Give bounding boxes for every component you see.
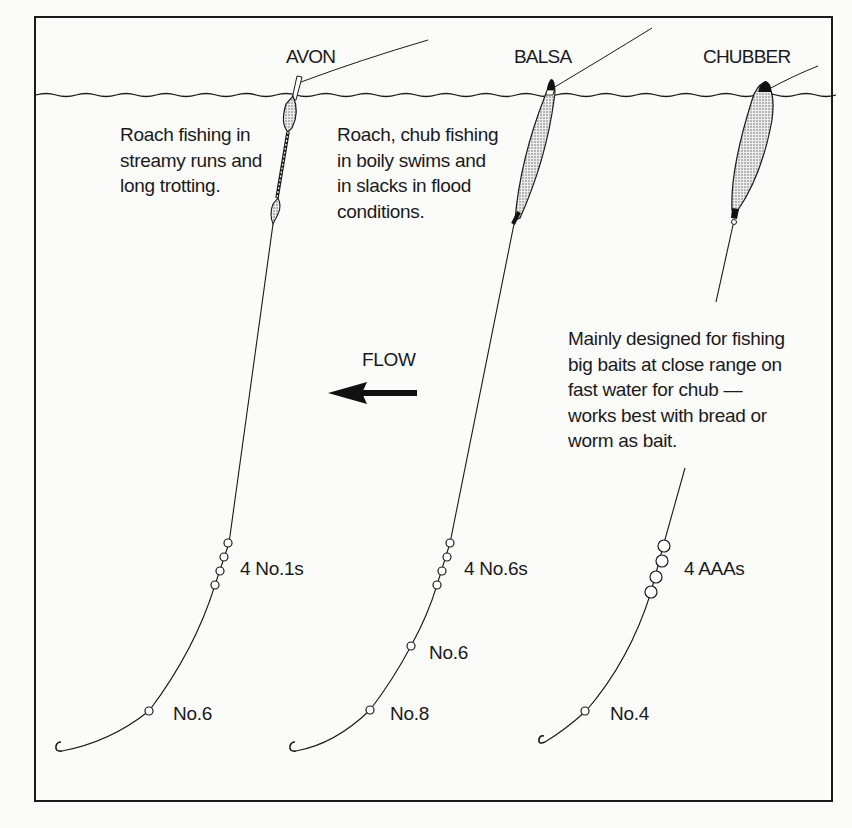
avon-description: Roach fishing in streamy runs and long t… <box>120 122 262 199</box>
balsa-dropper-label-lower: No.8 <box>390 701 429 726</box>
balsa-description-line: in slacks in flood <box>337 173 498 199</box>
chubber-description-line: Mainly designed for fishing <box>568 326 785 352</box>
water-surface-line <box>36 94 836 97</box>
avon-description-line: Roach fishing in <box>120 122 262 148</box>
balsa-description-line: in boily swims and <box>337 148 498 174</box>
balsa-shot-label: 4 No.6s <box>464 556 527 581</box>
balsa-float-title: BALSA <box>514 44 571 69</box>
chubber-description-line: works best with bread or <box>568 403 785 429</box>
chubber-description-line: worm as bait. <box>568 428 785 454</box>
avon-shot-label: 4 No.1s <box>240 556 303 581</box>
flow-label: FLOW <box>362 347 416 372</box>
avon-float-title: AVON <box>286 44 335 69</box>
avon-description-line: streamy runs and <box>120 148 262 174</box>
chubber-description: Mainly designed for fishing big baits at… <box>568 326 785 454</box>
chubber-dropper-label: No.4 <box>610 701 649 726</box>
balsa-dropper-label-upper: No.6 <box>429 640 468 665</box>
avon-description-line: long trotting. <box>120 173 262 199</box>
chubber-float-title: CHUBBER <box>703 44 790 69</box>
balsa-description-line: Roach, chub fishing <box>337 122 498 148</box>
left-arrow-icon <box>328 382 417 404</box>
chubber-description-line: big baits at close range on <box>568 352 785 378</box>
balsa-description: Roach, chub fishing in boily swims and i… <box>337 122 498 224</box>
balsa-description-line: conditions. <box>337 199 498 225</box>
chubber-shot-label: 4 AAAs <box>684 556 745 581</box>
chubber-description-line: fast water for chub — <box>568 377 785 403</box>
avon-dropper-label: No.6 <box>173 701 212 726</box>
